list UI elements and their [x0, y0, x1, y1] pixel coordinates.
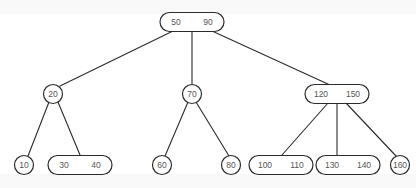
node-key-label: 30: [59, 160, 69, 170]
node-key-label: 120: [314, 89, 328, 99]
tree-edge: [196, 102, 229, 156]
node-key-label: 130: [325, 160, 339, 170]
two-three-tree-diagram: 509020701201501030406080100110130140160: [0, 0, 416, 188]
tree-edge: [346, 103, 396, 156]
tree-node[interactable]: 60: [153, 156, 172, 175]
node-key-label: 100: [258, 160, 272, 170]
tree-edge: [282, 103, 328, 155]
node-outline: [160, 13, 224, 32]
node-key-label: 90: [203, 17, 213, 27]
tree-edge: [165, 102, 188, 156]
tree-diagram-canvas: 509020701201501030406080100110130140160: [0, 0, 416, 188]
node-key-label: 50: [171, 17, 181, 27]
node-key-label: 10: [19, 160, 29, 170]
node-key-label: 160: [393, 160, 407, 170]
tree-node[interactable]: 130140: [316, 156, 380, 175]
node-key-label: 150: [346, 89, 360, 99]
node-key-label: 140: [357, 160, 371, 170]
tree-node[interactable]: 3040: [48, 156, 112, 175]
tree-edge: [212, 31, 330, 85]
tree-node[interactable]: 5090: [160, 13, 224, 32]
tree-edge: [28, 102, 49, 156]
node-outline: [48, 156, 112, 175]
node-key-label: 80: [226, 160, 236, 170]
tree-node[interactable]: 10: [15, 156, 34, 175]
tree-node[interactable]: 100110: [249, 156, 313, 175]
node-key-label: 70: [187, 89, 197, 99]
node-key-label: 110: [290, 160, 304, 170]
tree-edge: [60, 31, 173, 86]
node-layer: 509020701201501030406080100110130140160: [15, 13, 410, 175]
tree-edge: [58, 102, 80, 155]
tree-node[interactable]: 70: [183, 85, 202, 104]
node-key-label: 20: [48, 89, 58, 99]
tree-node[interactable]: 80: [222, 156, 241, 175]
node-key-label: 60: [157, 160, 167, 170]
node-key-label: 40: [91, 160, 101, 170]
bottom-wash: [0, 174, 416, 188]
tree-node[interactable]: 160: [391, 156, 410, 175]
tree-node[interactable]: 20: [44, 85, 63, 104]
tree-node[interactable]: 120150: [305, 85, 369, 104]
